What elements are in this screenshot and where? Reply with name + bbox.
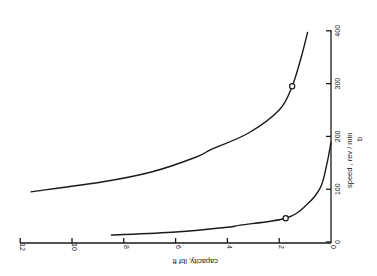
- speed-tick-label: 200: [334, 130, 341, 142]
- capacity-tick-label: 6: [175, 245, 182, 249]
- speed-ticks: 0100200300400: [326, 25, 341, 244]
- capacity-tick-label: 2: [278, 245, 285, 249]
- capacity-ticks: 024681012: [19, 238, 337, 251]
- capacity-tick-label: 0: [330, 245, 337, 249]
- capacity-tick-label: 10: [71, 243, 78, 251]
- lower-curve: [111, 142, 331, 235]
- speed-tick-label: 400: [334, 25, 341, 37]
- panel-label: b: [355, 137, 364, 141]
- capacity-axis-label: capacity, lbf ft: [172, 257, 218, 266]
- speed-tick-label: 300: [334, 78, 341, 90]
- capacity-tick-label: 4: [226, 245, 233, 249]
- upper-curve: [31, 32, 308, 192]
- open-circle-marker: [283, 216, 288, 221]
- chart: 0100200300400 024681012 speed , rev / mi…: [0, 0, 377, 276]
- capacity-tick-label: 8: [123, 245, 130, 249]
- capacity-tick-label: 12: [19, 243, 26, 251]
- speed-axis-label: speed , rev / min: [345, 133, 354, 188]
- speed-tick-label: 0: [334, 240, 341, 244]
- speed-tick-label: 100: [334, 183, 341, 195]
- open-circle-marker: [290, 84, 295, 89]
- curves: [31, 32, 331, 235]
